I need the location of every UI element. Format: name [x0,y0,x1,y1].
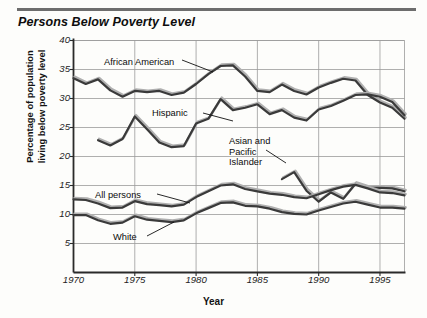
series-label-all-persons: All persons [95,190,141,201]
plot-area [0,0,427,318]
series-label-hispanic: Hispanic [152,108,188,119]
asian-label-line1: Asian and [229,136,270,146]
chart-figure: Persons Below Poverty Level Percentage o… [0,0,427,318]
series-label-asian-pacific-islander: Asian and Pacific Islander [229,136,270,168]
series-label-african-american: African American [104,57,174,68]
asian-label-line2: Pacific [229,147,256,157]
series-label-white: White [113,232,137,243]
asian-label-line3: Islander [229,157,262,167]
